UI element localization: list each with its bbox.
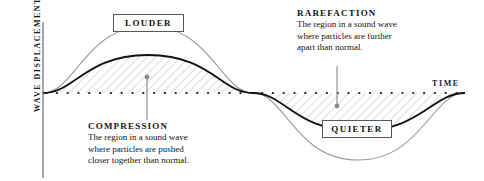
callout-louder-label: LOUDER: [125, 18, 172, 28]
annotation-compression: COMPRESSION The region in a sound wave w…: [88, 121, 263, 167]
annotation-compression-title: COMPRESSION: [88, 121, 263, 131]
callout-quieter: QUIETER: [322, 120, 392, 138]
sound-wave-diagram: WAVE DISPLACEMENT TIME LOUDER QUIETER RA…: [0, 0, 484, 181]
x-axis-label: TIME: [432, 79, 460, 88]
annotation-rarefaction-body: The region in a sound wave where particl…: [297, 19, 467, 54]
compression-hatch-region: [43, 55, 253, 93]
annotation-rarefaction: RAREFACTION The region in a sound wave w…: [297, 8, 467, 54]
callout-quieter-label: QUIETER: [331, 124, 382, 134]
callout-louder: LOUDER: [113, 14, 184, 32]
annotation-rarefaction-title: RAREFACTION: [297, 8, 467, 18]
y-axis-label: WAVE DISPLACEMENT: [33, 0, 42, 125]
annotation-compression-body: The region in a sound wave where particl…: [88, 132, 263, 167]
